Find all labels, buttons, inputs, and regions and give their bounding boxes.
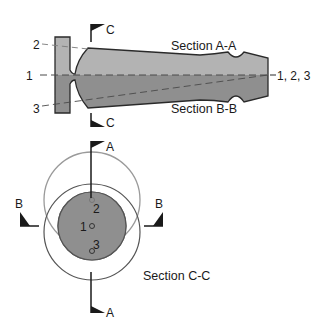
cut-flag-c-top: C	[91, 23, 115, 42]
cut-b-left-label: B	[15, 197, 23, 211]
section-cc-label: Section C-C	[143, 269, 210, 283]
point-2-label: 2	[93, 202, 100, 216]
cut-flag-a-top: A	[91, 140, 114, 198]
axis-label-end: 1, 2, 3	[277, 69, 311, 83]
axis-label-3: 3	[33, 102, 40, 116]
cut-b-right-label: B	[155, 197, 163, 211]
flag-icon	[91, 141, 105, 148]
axis-label-1: 1	[26, 69, 33, 83]
cut-c-bottom-label: C	[106, 116, 115, 130]
flag-icon	[91, 306, 105, 313]
section-cc-view: 2 1 3	[44, 152, 140, 280]
cut-c-top-label: C	[106, 23, 115, 37]
flag-icon	[91, 120, 105, 127]
cut-a-top-label: A	[106, 140, 114, 154]
flag-icon	[20, 212, 30, 226]
flag-icon	[91, 24, 105, 31]
flag-icon	[153, 212, 163, 226]
cut-flag-c-bottom: C	[91, 113, 115, 130]
section-aa-label: Section A-A	[171, 39, 237, 53]
point-3-label: 3	[93, 238, 100, 252]
diagram-canvas: 2 1 3 1, 2, 3 Section A-A Section B-B C …	[0, 0, 331, 326]
section-bb-label: Section B-B	[171, 102, 237, 116]
cut-flag-b-left: B	[15, 197, 39, 226]
axis-label-2: 2	[33, 38, 40, 52]
cut-a-bottom-label: A	[106, 306, 114, 320]
point-1-label: 1	[80, 220, 87, 234]
cut-flag-b-right: B	[144, 197, 163, 226]
